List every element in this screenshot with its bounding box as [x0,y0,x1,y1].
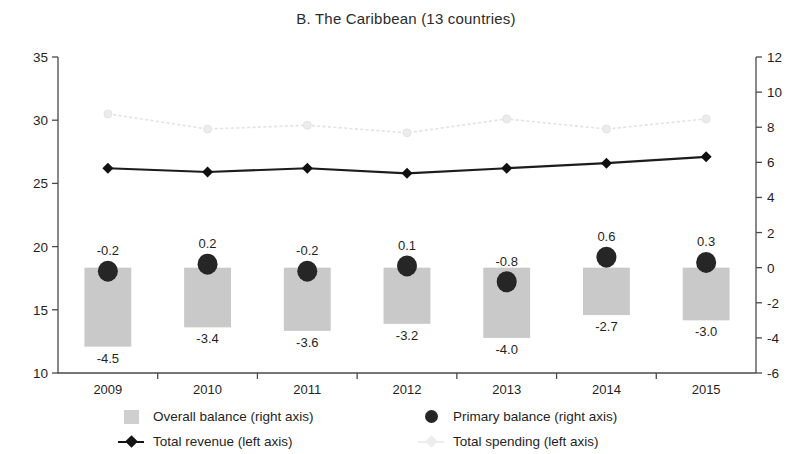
total-revenue-point [202,167,213,178]
primary-balance-point [297,261,317,282]
total-spending-point [104,110,112,118]
chart-container: B. The Caribbean (13 countries) 10152025… [0,0,812,454]
total-spending-point [403,129,411,137]
bar-overall-balance [683,268,730,321]
chart-legend: Overall balance (right axis) Primary bal… [0,404,812,454]
x-axis-tick-label: 2013 [492,382,521,397]
primary-balance-value-label: -0.2 [97,243,119,258]
total-spending-point [702,115,710,123]
left-axis-tick-label: 25 [33,176,48,191]
legend-label-overall-balance: Overall balance (right axis) [153,409,314,424]
bar-overall-balance [184,268,231,328]
legend-item-overall-balance: Overall balance (right axis) [118,409,418,424]
total-revenue-point [501,163,512,174]
x-axis-tick-label: 2012 [393,382,422,397]
right-axis-tick-label: 8 [767,120,775,135]
left-axis-line [58,57,756,373]
line-light-marker-icon [418,435,444,449]
primary-balance-point [397,255,417,276]
left-axis-tick-label: 30 [33,113,48,128]
total-revenue-point [701,151,712,162]
bar-value-label: -3.4 [196,331,218,346]
primary-balance-value-label: 0.1 [398,238,416,253]
right-axis-tick-label: -2 [767,296,779,311]
bar-value-label: -3.2 [396,328,418,343]
legend-label-primary-balance: Primary balance (right axis) [453,409,617,424]
legend-item-primary-balance: Primary balance (right axis) [418,409,718,424]
x-axis-tick-label: 2015 [692,382,721,397]
line-diamond-marker-icon [118,435,144,449]
primary-balance-value-label: -0.2 [296,243,318,258]
legend-item-total-revenue: Total revenue (left axis) [118,434,418,449]
bar-overall-balance [583,268,630,315]
x-axis-tick-label: 2010 [193,382,222,397]
right-axis-tick-label: 4 [767,190,775,205]
bar-swatch-icon [118,410,144,424]
total-spending-point [503,115,511,123]
legend-item-total-spending: Total spending (left axis) [418,434,718,449]
circle-marker-icon [418,410,444,424]
primary-balance-point [98,261,118,282]
primary-balance-point [596,247,616,268]
total-spending-point [204,125,212,133]
total-spending-point [602,125,610,133]
total-revenue-point [102,163,113,174]
bar-value-label: -3.0 [695,324,717,339]
bar-value-label: -3.6 [296,335,318,350]
x-axis-tick-label: 2009 [93,382,122,397]
total-revenue-point [402,168,413,179]
total-revenue-point [302,163,313,174]
right-axis-tick-label: -4 [767,331,779,346]
right-axis-tick-label: 6 [767,155,775,170]
left-axis-tick-label: 10 [33,366,48,381]
right-axis-tick-label: -6 [767,366,779,381]
bar-value-label: -2.7 [595,319,617,334]
primary-balance-value-label: 0.2 [199,236,217,251]
total-revenue-point [601,158,612,169]
right-axis-tick-label: 10 [767,85,782,100]
bar-value-label: -4.5 [97,351,119,366]
chart-plot-area: 101520253035-6-4-20246810122009201020112… [0,0,812,454]
legend-label-total-revenue: Total revenue (left axis) [153,434,293,449]
right-axis-tick-label: 0 [767,261,775,276]
left-axis-tick-label: 35 [33,50,48,65]
primary-balance-value-label: 0.6 [597,229,615,244]
x-axis-tick-label: 2011 [293,382,321,397]
left-axis-tick-label: 15 [33,303,48,318]
primary-balance-value-label: -0.8 [496,254,518,269]
total-spending-point [303,121,311,129]
primary-balance-value-label: 0.3 [697,234,715,249]
left-axis-tick-label: 20 [33,240,48,255]
legend-label-total-spending: Total spending (left axis) [453,434,599,449]
primary-balance-point [198,254,218,275]
primary-balance-point [696,252,716,273]
bar-value-label: -4.0 [496,342,518,357]
primary-balance-point [497,271,517,292]
right-axis-tick-label: 2 [767,226,775,241]
x-axis-tick-label: 2014 [592,382,621,397]
right-axis-tick-label: 12 [767,50,782,65]
